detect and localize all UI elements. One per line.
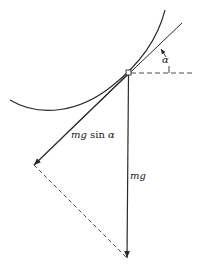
angle-label: α bbox=[162, 55, 169, 65]
weight-arrow bbox=[127, 75, 129, 258]
curve-path bbox=[10, 10, 165, 110]
completion-dashed-line bbox=[34, 165, 126, 257]
tangential-force-sin: sin bbox=[90, 129, 105, 140]
tangential-force-alpha: α bbox=[108, 129, 115, 140]
weight-label: mg bbox=[130, 171, 146, 181]
tangential-arrow bbox=[34, 75, 127, 165]
contact-point bbox=[126, 70, 131, 75]
force-diagram: α mg sin α mg bbox=[0, 0, 198, 265]
tangential-force-mass-symbol: mg bbox=[71, 129, 87, 140]
tangential-force-label: mg sin α bbox=[71, 130, 115, 140]
